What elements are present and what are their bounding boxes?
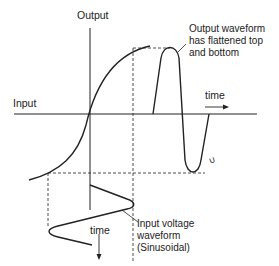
output-annotation-leader [178,44,186,52]
input-axis-label: Input [13,97,36,109]
output-waveform-annotation: Output waveform has flattened top and bo… [189,23,265,59]
input-annotation-leader [122,210,138,222]
time-horizontal-label: time [205,89,225,101]
input-waveform [49,185,134,245]
output-axis-label: Output [77,9,109,21]
time-vertical-label: time [90,224,110,236]
arrowhead-right-icon [223,105,229,110]
arrowhead-down-icon [97,254,102,260]
output-waveform [153,48,209,173]
input-waveform-annotation: Input voltage waveform (Sinusoidal) [137,218,194,254]
